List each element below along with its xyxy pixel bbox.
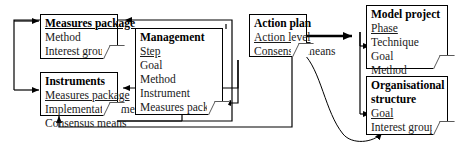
- note-line: Measures package: [140, 100, 218, 114]
- note-line: Goal: [371, 106, 443, 120]
- note-line: Instrument: [140, 86, 218, 100]
- note-measures-package[interactable]: Measures package Method Interest groups: [40, 14, 118, 59]
- note-heading-line-1: Organisational: [371, 78, 443, 92]
- note-heading: Model project: [371, 7, 443, 21]
- diagram-canvas: Measures package Method Interest groups …: [0, 0, 455, 153]
- note-action-plan[interactable]: Action plan Action level Consensus means: [249, 14, 307, 57]
- note-organisational-structure[interactable]: Organisational structure Goal Interest g…: [366, 76, 448, 135]
- note-line: Phase: [371, 21, 443, 35]
- note-line: Consensus means: [45, 116, 113, 130]
- note-line: Measures package: [45, 88, 113, 102]
- note-line: Step: [140, 44, 218, 58]
- note-heading: Instruments: [45, 74, 113, 88]
- note-body: Instruments Measures package Implementat…: [41, 73, 117, 132]
- note-body: Organisational structure Goal Interest g…: [367, 77, 447, 136]
- note-model-project[interactable]: Model project Phase Technique Goal Metho…: [366, 5, 448, 69]
- note-body: Action plan Action level Consensus means: [250, 15, 306, 60]
- note-line: Action level: [254, 30, 302, 44]
- note-heading: Management: [140, 30, 218, 44]
- note-line: Method: [45, 30, 113, 44]
- note-body: Measures package Method Interest groups: [41, 15, 117, 60]
- note-line: Interest groups: [371, 120, 443, 134]
- note-line: Goal: [371, 49, 443, 63]
- note-line: Implementation means: [45, 102, 113, 116]
- note-heading: Action plan: [254, 16, 302, 30]
- note-line: Goal: [140, 58, 218, 72]
- note-line: Method: [140, 72, 218, 86]
- note-management[interactable]: Management Step Goal Method Instrument M…: [135, 28, 223, 115]
- note-line: Consensus means: [254, 44, 302, 58]
- note-heading: Measures package: [45, 16, 113, 30]
- wire-actionplan-to-management-measures: [224, 60, 238, 103]
- note-body: Management Step Goal Method Instrument M…: [136, 29, 222, 116]
- note-line: Method: [371, 63, 443, 77]
- note-instruments[interactable]: Instruments Measures package Implementat…: [40, 72, 118, 116]
- note-heading-line-2: structure: [371, 92, 443, 106]
- note-line: Interest groups: [45, 44, 113, 58]
- note-body: Model project Phase Technique Goal Metho…: [367, 6, 447, 79]
- note-line: Technique: [371, 35, 443, 49]
